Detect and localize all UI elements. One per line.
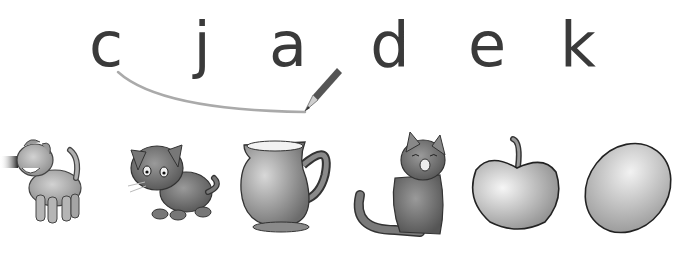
- worksheet: c j a d e k: [0, 0, 694, 255]
- egg-picture[interactable]: [0, 0, 694, 255]
